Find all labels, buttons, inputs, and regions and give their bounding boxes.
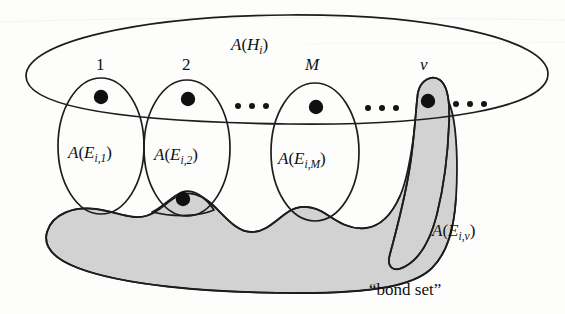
subset-label-1-prefix: A	[67, 143, 79, 162]
subset-label-1-sub: i,1	[94, 152, 106, 165]
bond-set-caption-text: “bond set”	[369, 280, 441, 299]
index-label-2-text: 2	[182, 55, 191, 74]
svg-text:A(Ei,1): A(Ei,1)	[67, 143, 112, 165]
bond-set-caption: “bond set”	[369, 280, 441, 299]
subset-label-1-base: E	[83, 143, 95, 162]
outer-set-label-prefix: A	[230, 35, 242, 54]
member-dot-2-bottom	[176, 192, 190, 206]
subset-label-2-base: E	[169, 145, 181, 164]
svg-text:A(Ei,2): A(Ei,2)	[153, 145, 198, 167]
ellipsis-far-right	[453, 101, 487, 107]
subset-label-nu: A(Ei,ν)	[431, 221, 475, 243]
subset-label-M: A(Ei,M)	[277, 149, 326, 171]
subset-label-2-prefix: A	[153, 145, 165, 164]
index-label-1-text: 1	[96, 55, 105, 74]
member-dot-nu	[421, 94, 435, 108]
index-label-1: 1	[96, 55, 105, 74]
member-dot-M	[309, 100, 323, 114]
svg-text:A(Hi): A(Hi)	[230, 35, 268, 56]
scan-artifacts	[0, 18, 565, 44]
subset-label-nu-close: )	[470, 221, 476, 240]
subset-label-2-sub: i,2	[180, 154, 192, 167]
subset-label-M-close: )	[320, 149, 326, 168]
subset-label-2-close: )	[192, 145, 198, 164]
subset-label-nu-base: E	[447, 221, 459, 240]
figure-container: A(Hi) 1 2 M ν A(Ei,1) A(Ei,2)	[0, 0, 565, 314]
subset-label-1: A(Ei,1)	[67, 143, 112, 165]
outer-set-label: A(Hi)	[230, 35, 268, 56]
index-label-nu: ν	[420, 55, 428, 74]
subset-label-M-sub: i,M	[304, 158, 321, 171]
index-label-M-text: M	[304, 55, 320, 74]
index-label-nu-text: ν	[420, 55, 428, 74]
diagram-canvas: A(Hi) 1 2 M ν A(Ei,1) A(Ei,2)	[0, 0, 565, 314]
ellipsis-right-of-M	[365, 105, 399, 111]
subset-label-M-base: E	[293, 149, 305, 168]
index-label-M: M	[304, 55, 320, 74]
outer-set-label-close: )	[263, 35, 269, 54]
svg-text:A(Ei,ν): A(Ei,ν)	[431, 221, 475, 243]
subset-label-M-prefix: A	[277, 149, 289, 168]
subset-label-nu-prefix: A	[431, 221, 443, 240]
index-label-2: 2	[182, 55, 191, 74]
ellipsis-mid	[235, 103, 269, 109]
member-dot-2-top	[181, 92, 195, 106]
subset-label-2: A(Ei,2)	[153, 145, 198, 167]
member-dot-1	[94, 90, 108, 104]
svg-text:A(Ei,M): A(Ei,M)	[277, 149, 326, 171]
subset-label-1-close: )	[106, 143, 112, 162]
